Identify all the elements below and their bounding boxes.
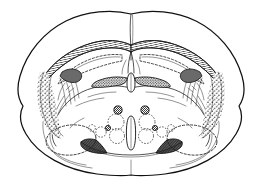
nucleus-filled-lower-right xyxy=(152,125,157,130)
brain-section-figure xyxy=(0,0,262,177)
coronal-section-drawing xyxy=(0,0,262,177)
nucleus-filled-upper-left xyxy=(114,106,122,114)
third-ventricle xyxy=(126,116,135,150)
nucleus-filled-upper-right xyxy=(141,106,149,114)
nucleus-filled-lower-left xyxy=(105,125,110,130)
